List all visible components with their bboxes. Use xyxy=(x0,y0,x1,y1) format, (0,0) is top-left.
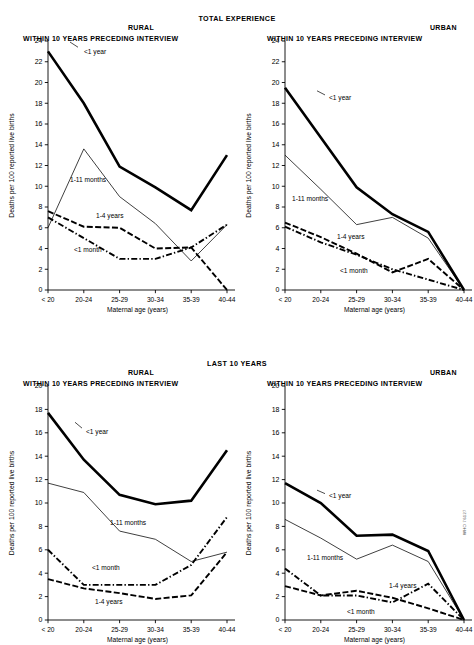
series-line-1-year xyxy=(285,88,464,290)
y-tick-label: 2 xyxy=(276,593,280,600)
y-tick-label: 20 xyxy=(272,79,280,86)
y-tick-label: 0 xyxy=(276,286,280,293)
y-tick-label: 18 xyxy=(272,100,280,107)
annotation-leader-line xyxy=(70,42,78,47)
series-label-1-year: <1 year xyxy=(329,94,352,102)
y-axis-title: Deaths per 100 reported live births xyxy=(245,450,253,555)
y-tick-label: 18 xyxy=(35,406,43,413)
y-tick-label: 2 xyxy=(276,266,280,273)
x-tick-label: 35-39 xyxy=(420,296,437,303)
plot-area-last10-urban: 02468101214161820< 2020-2425-2930-3435-3… xyxy=(237,330,474,645)
x-tick-label: 30-34 xyxy=(147,296,164,303)
y-tick-label: 10 xyxy=(35,499,43,506)
panel-group-last-10-years: LAST 10 YEARS RURAL WITHIN 10 YEARS PREC… xyxy=(0,330,474,645)
x-tick-label: 40-44 xyxy=(456,296,473,303)
svg-total-urban: 024681012141618202224< 2020-2425-2930-34… xyxy=(237,0,474,330)
series-label-1-month: <1 month xyxy=(92,564,120,571)
y-tick-label: 6 xyxy=(39,224,43,231)
y-tick-label: 6 xyxy=(39,546,43,553)
x-tick-label: < 20 xyxy=(41,626,54,633)
series-label-1-4-years: 1-4 years xyxy=(95,598,123,606)
series-label-1-month: <1 month xyxy=(347,608,375,615)
series-label-1-4-years: 1-4 years xyxy=(96,212,124,220)
y-axis-title: Deaths per 100 reported live births xyxy=(8,113,16,218)
y-tick-label: 14 xyxy=(35,141,43,148)
y-tick-label: 12 xyxy=(35,162,43,169)
y-tick-label: 8 xyxy=(39,203,43,210)
series-label-1-11-months: 1-11 months xyxy=(307,554,344,561)
x-tick-label: 30-34 xyxy=(384,626,401,633)
series-line-1-month xyxy=(285,227,464,290)
y-tick-label: 10 xyxy=(35,183,43,190)
panel-group-total-experience: TOTAL EXPERIENCE RURAL WITHIN 10 YEARS P… xyxy=(0,0,474,330)
y-tick-label: 10 xyxy=(272,499,280,506)
y-tick-label: 4 xyxy=(39,570,43,577)
series-label-1-year: <1 year xyxy=(86,428,109,436)
x-tick-label: 20-24 xyxy=(75,296,92,303)
y-tick-label: 6 xyxy=(276,546,280,553)
y-tick-label: 16 xyxy=(272,429,280,436)
x-tick-label: 35-39 xyxy=(183,296,200,303)
series-line-1-month xyxy=(48,517,227,585)
x-tick-label: 40-44 xyxy=(456,626,473,633)
y-tick-label: 2 xyxy=(39,266,43,273)
series-label-1-year: <1 year xyxy=(329,492,352,500)
series-label-1-11-months: 1-11 months xyxy=(292,195,329,202)
x-tick-label: 20-24 xyxy=(75,626,92,633)
y-tick-label: 6 xyxy=(276,224,280,231)
x-tick-label: 25-29 xyxy=(111,626,128,633)
y-tick-label: 22 xyxy=(35,58,43,65)
y-tick-label: 24 xyxy=(272,37,280,44)
series-label-1-month: <1 month xyxy=(74,246,102,253)
annotation-leader-line xyxy=(317,91,325,95)
x-tick-label: 20-24 xyxy=(312,626,329,633)
y-tick-label: 22 xyxy=(272,58,280,65)
x-tick-label: 35-39 xyxy=(183,626,200,633)
x-axis-title: Maternal age (years) xyxy=(107,636,168,644)
y-tick-label: 4 xyxy=(276,570,280,577)
x-axis-title: Maternal age (years) xyxy=(344,306,405,314)
y-tick-label: 16 xyxy=(272,120,280,127)
series-label-1-year: <1 year xyxy=(84,48,107,56)
plot-area-total-rural: 024681012141618202224< 2020-2425-2930-34… xyxy=(0,0,237,330)
y-tick-label: 24 xyxy=(35,37,43,44)
x-tick-label: < 20 xyxy=(278,296,291,303)
series-line-1-4-years xyxy=(285,586,464,620)
plot-area-total-urban: 024681012141618202224< 2020-2425-2930-34… xyxy=(237,0,474,330)
series-line-1-11-months xyxy=(285,155,464,290)
series-line-1-11-months xyxy=(48,149,227,261)
y-tick-label: 2 xyxy=(39,593,43,600)
svg-total-rural: 024681012141618202224< 2020-2425-2930-34… xyxy=(0,0,237,330)
y-tick-label: 14 xyxy=(35,453,43,460)
x-tick-label: < 20 xyxy=(41,296,54,303)
y-tick-label: 8 xyxy=(276,523,280,530)
y-tick-label: 0 xyxy=(276,616,280,623)
y-axis-title: Deaths per 100 reported live births xyxy=(245,113,253,218)
x-tick-label: 25-29 xyxy=(111,296,128,303)
y-tick-label: 8 xyxy=(276,203,280,210)
y-tick-label: 14 xyxy=(272,453,280,460)
y-axis-title: Deaths per 100 reported live births xyxy=(8,450,16,555)
y-tick-label: 8 xyxy=(39,523,43,530)
annotation-leader-line xyxy=(75,422,82,428)
y-tick-label: 16 xyxy=(35,429,43,436)
y-tick-label: 10 xyxy=(272,183,280,190)
x-axis-title: Maternal age (years) xyxy=(107,306,168,314)
y-tick-label: 4 xyxy=(39,245,43,252)
svg-last10-rural: 02468101214161820< 2020-2425-2930-3435-3… xyxy=(0,330,237,645)
x-tick-label: 35-39 xyxy=(420,626,437,633)
y-tick-label: 18 xyxy=(272,406,280,413)
series-label-1-4-years: 1-4 years xyxy=(389,582,417,590)
y-tick-label: 0 xyxy=(39,616,43,623)
y-tick-label: 20 xyxy=(272,382,280,389)
y-tick-label: 20 xyxy=(35,79,43,86)
y-tick-label: 14 xyxy=(272,141,280,148)
y-tick-label: 18 xyxy=(35,100,43,107)
series-line-1-4-years xyxy=(285,223,464,290)
x-tick-label: < 20 xyxy=(278,626,291,633)
figure-id-label: WHO 76127 xyxy=(462,509,467,535)
x-tick-label: 30-34 xyxy=(384,296,401,303)
x-axis-title: Maternal age (years) xyxy=(344,636,405,644)
y-tick-label: 12 xyxy=(35,476,43,483)
series-line-1-year xyxy=(48,51,227,210)
